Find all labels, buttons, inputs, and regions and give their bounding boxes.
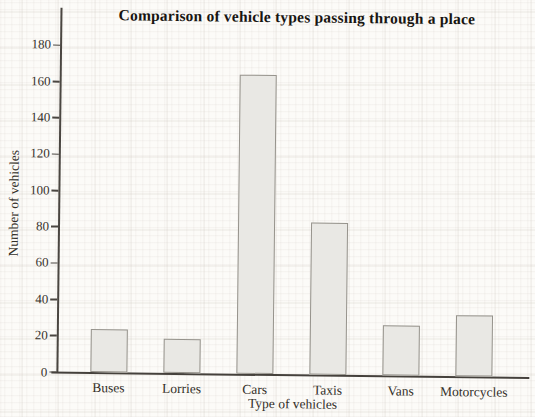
scanned-page-background: Comparison of vehicle types passing thro… [0,0,535,417]
y-tick-label: 20 [8,328,48,342]
y-tick-label: 160 [11,74,51,88]
y-tick-label: 180 [11,37,51,51]
chart-canvas: Comparison of vehicle types passing thro… [0,0,535,417]
bars-group [3,0,535,3]
bar-taxis [309,222,347,375]
y-tick-mark [51,226,58,228]
y-tick-label: 100 [9,183,49,197]
bar-cars [236,74,276,374]
y-tick-mark [52,153,59,155]
y-tick-mark [52,117,59,119]
y-axis-ticks: 020406080100120140160180 [3,0,535,3]
bar-lorries [163,339,200,374]
y-tick-label: 80 [9,219,49,233]
chart-title: Comparison of vehicle types passing thro… [60,6,533,29]
y-tick-mark [51,190,58,192]
bar-buses [90,329,127,373]
y-tick-label: 120 [10,146,50,160]
y-tick-mark [53,44,60,46]
y-tick-mark [53,81,60,83]
category-labels: BusesLorriesCarsTaxisVansMotorcycles [3,0,535,3]
y-tick-mark [49,371,56,373]
y-tick-label: 0 [7,365,47,379]
bar-motorcycles [456,315,493,377]
y-tick-label: 60 [9,256,49,270]
y-tick-label: 40 [8,292,48,306]
bar-vans [383,325,420,376]
y-tick-mark [51,262,58,264]
y-tick-mark [50,299,57,301]
y-tick-mark [50,335,57,337]
y-tick-label: 140 [10,110,50,124]
